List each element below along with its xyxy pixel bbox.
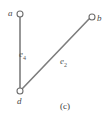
edge-e2-line xyxy=(22,19,89,89)
node-label-a: a xyxy=(8,9,13,18)
node-a-circle[interactable] xyxy=(17,11,23,17)
node-b-circle[interactable] xyxy=(89,14,95,20)
node-label-b: b xyxy=(97,14,102,23)
edge-label-e4: e4 xyxy=(19,50,26,61)
edge-label-e2-subscript: 2 xyxy=(64,62,67,68)
node-label-d: d xyxy=(17,97,22,106)
edge-label-e4-subscript: 4 xyxy=(23,55,26,61)
figure-caption: (c) xyxy=(60,102,70,111)
edge-label-e2: e2 xyxy=(60,57,67,68)
figure-graph-c: a b d e4 e2 (c) xyxy=(0,0,110,120)
node-d-circle[interactable] xyxy=(17,88,23,94)
